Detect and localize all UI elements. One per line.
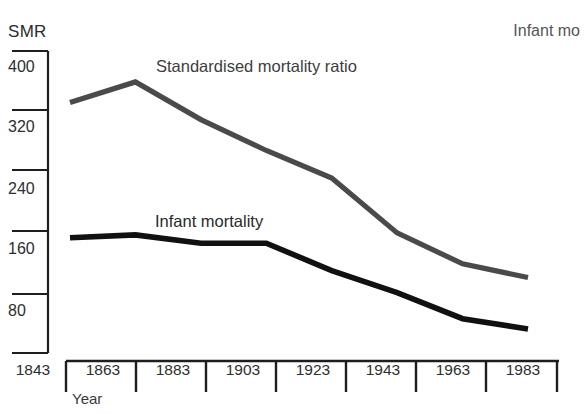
y-axis (12, 51, 48, 353)
series-line-smr (70, 82, 528, 278)
plot-area (0, 0, 584, 414)
series-line-infant-mortality (70, 235, 528, 329)
x-axis (66, 361, 559, 392)
mortality-line-chart: SMR Infant mo Year Standardised mortalit… (0, 0, 584, 414)
